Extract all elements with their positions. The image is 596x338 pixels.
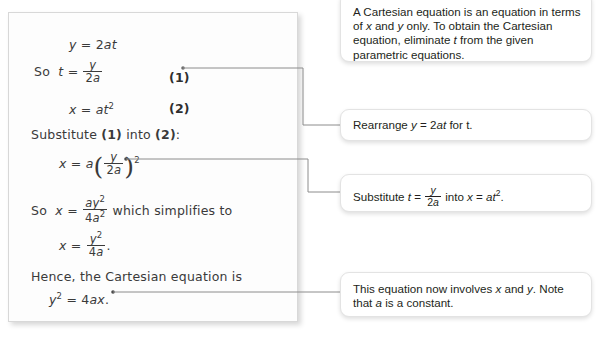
line-x-equals-at2: x = at2 [69, 101, 114, 117]
note-line: that a is a constant. [353, 296, 581, 310]
so-label-2: So [31, 203, 47, 218]
fraction-y-over-2a-note: y2a [425, 185, 441, 208]
note-substitute: Substitute t = y2a into x = at2. [340, 174, 592, 212]
note-line: equation, eliminate t from the given [353, 33, 581, 47]
line-substitute-1-into-2: Substitute (1) into (2): [31, 127, 180, 142]
fraction-y2-over-4a: y24a [87, 231, 106, 258]
line-x-equals-y2-over-4a: x = y24a . [59, 231, 111, 258]
so-label-1: So [34, 64, 50, 79]
note-line: of x and y only. To obtain the Cartesian [353, 19, 581, 33]
line-so-t-equals: So t = y2a [34, 59, 103, 84]
note-rearrange: Rearrange y = 2at for t. [340, 109, 592, 141]
line-hence-cartesian: Hence, the Cartesian equation is [31, 269, 242, 284]
which-simplifies-label: which simplifies to [113, 203, 233, 218]
line-x-equals-a-y-over-2a-squared: x = a(y2a)2 [59, 151, 140, 181]
note-line: Substitute t = y2a into x = at2. [353, 185, 581, 208]
note-line: parametric equations. [353, 48, 581, 62]
note-line: Rearrange y = 2at for t. [353, 118, 581, 132]
tag-one: (1) [169, 70, 190, 85]
note-involves-x-and-y: This equation now involves x and y. Note… [340, 272, 592, 317]
note-cartesian-definition: A Cartesian equation is an equation in t… [340, 0, 592, 62]
note-line: This equation now involves x and y. Note [353, 282, 581, 296]
note-line: A Cartesian equation is an equation in t… [353, 5, 581, 19]
fraction-y-over-2a: y2a [83, 59, 102, 84]
line-so-x-equals-ay2-over-4a2: So x = ay24a2 which simplifies to [31, 195, 232, 224]
fraction-y-over-2a-inner: y2a [104, 151, 123, 176]
line-y-equals-2at: y = 2at [69, 37, 117, 52]
fraction-ay2-over-4a2: ay24a2 [83, 195, 107, 224]
solution-card: y = 2at So t = y2a (1) x = at2 (2) Subst… [8, 12, 298, 322]
tag-two: (2) [169, 101, 190, 116]
line-y2-equals-4ax: y2 = 4ax. [49, 291, 109, 307]
